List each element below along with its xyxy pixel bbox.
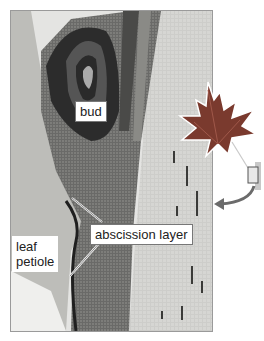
abscission-layer-label: abscission layer (90, 224, 193, 245)
leaf-petiole-label: leaf petiole (12, 236, 58, 272)
curved-arrow-icon (220, 186, 254, 204)
maple-leaf-icon (180, 82, 256, 156)
petiole-highlight-box (248, 162, 261, 190)
bud-label: bud (75, 101, 107, 122)
leaf-inset (170, 70, 264, 220)
